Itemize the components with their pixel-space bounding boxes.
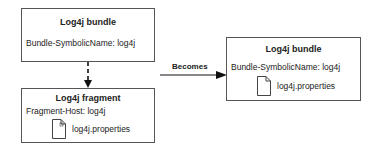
result-bundle-attribute: Bundle-SymbolicName: log4j (231, 62, 340, 72)
document-icon (257, 76, 271, 96)
result-bundle-box: Log4j bundle Bundle-SymbolicName: log4j … (226, 37, 361, 101)
source-bundle-title: Log4j bundle (22, 17, 154, 27)
fragment-box: Log4j fragment Fragment-Host: log4j log4… (21, 88, 155, 143)
source-bundle-box: Log4j bundle Bundle-SymbolicName: log4j (21, 8, 155, 62)
result-file-name: log4j.properties (277, 81, 335, 91)
fragment-file-name: log4j.properties (72, 124, 130, 134)
source-bundle-attribute: Bundle-SymbolicName: log4j (26, 38, 135, 48)
document-icon (52, 119, 66, 139)
result-file: log4j.properties (257, 76, 335, 96)
result-bundle-title: Log4j bundle (227, 44, 360, 54)
fragment-title: Log4j fragment (22, 93, 154, 103)
becomes-arrow (160, 70, 228, 80)
fragment-attribute: Fragment-Host: log4j (26, 106, 105, 116)
dashed-arrow-down (82, 62, 94, 89)
fragment-file: log4j.properties (52, 119, 130, 139)
